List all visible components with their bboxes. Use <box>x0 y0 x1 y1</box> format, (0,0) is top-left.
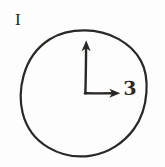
vertical-arrow-shaft <box>85 46 86 93</box>
figure-drawing <box>0 0 165 167</box>
horizontal-axis-value-label: 3 <box>123 79 137 98</box>
figure-container: I 3 <box>0 0 165 167</box>
origin-point <box>84 92 87 95</box>
panel-label: I <box>15 11 21 28</box>
